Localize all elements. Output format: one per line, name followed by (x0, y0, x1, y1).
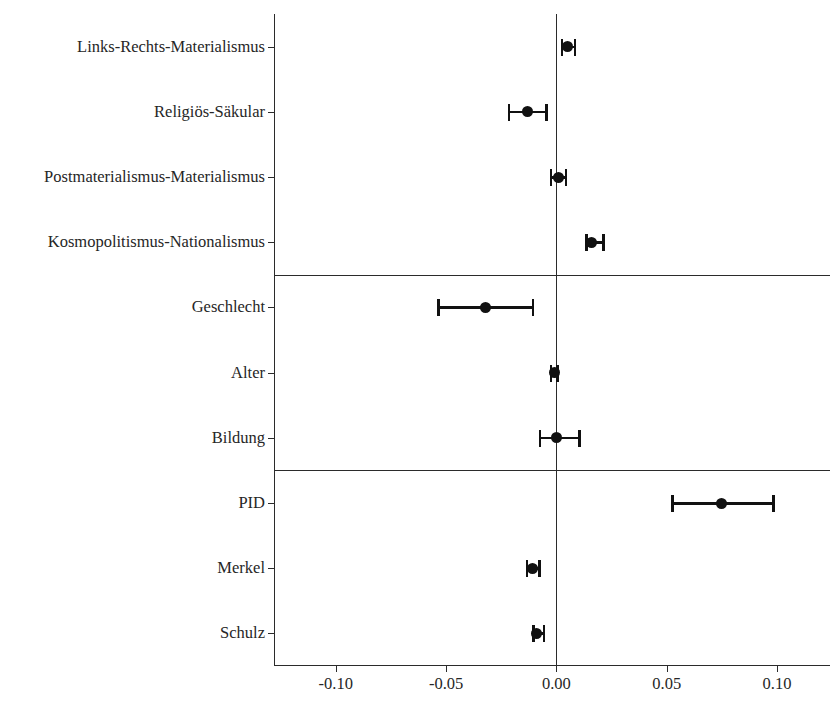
ci-cap-high (538, 560, 541, 577)
estimate-point (531, 628, 542, 639)
y-axis-tick (268, 568, 274, 569)
estimate-row (274, 164, 830, 190)
estimate-row (274, 425, 830, 451)
ci-cap-high (772, 495, 775, 512)
estimate-row (274, 99, 830, 125)
y-axis-label: PID (238, 495, 265, 512)
estimate-row (274, 294, 830, 320)
estimate-row (274, 229, 830, 255)
group-separator (274, 275, 830, 276)
y-axis-label: Links-Rechts-Materialismus (77, 38, 265, 55)
estimate-point (527, 563, 538, 574)
ci-cap-high (543, 625, 546, 642)
estimate-point (562, 41, 573, 52)
y-axis-tick (268, 503, 274, 504)
y-axis-tick (268, 112, 274, 113)
estimate-row (274, 360, 830, 386)
x-axis-label: 0.05 (652, 676, 681, 693)
y-axis-tick (268, 177, 274, 178)
estimate-point (549, 367, 560, 378)
ci-cap-high (545, 104, 548, 121)
estimate-row (274, 555, 830, 581)
y-axis-tick (268, 307, 274, 308)
estimate-point (586, 237, 597, 248)
ci-cap-high (565, 169, 568, 186)
y-axis-label: Kosmopolitismus-Nationalismus (48, 234, 265, 251)
y-axis-tick (268, 47, 274, 48)
y-axis-label: Geschlecht (192, 299, 265, 316)
y-axis-label: Postmaterialismus-Materialismus (44, 169, 265, 186)
x-axis-label: 0.10 (763, 676, 792, 693)
y-axis-label: Merkel (217, 560, 265, 577)
ci-cap-high (578, 430, 581, 447)
estimate-point (551, 432, 562, 443)
ci-cap-low (550, 169, 553, 186)
x-axis-tick (556, 666, 557, 672)
y-axis-tick (268, 373, 274, 374)
y-axis-label: Religiös-Säkular (154, 104, 265, 121)
estimate-point (716, 498, 727, 509)
estimate-point (480, 302, 491, 313)
estimate-point (522, 106, 533, 117)
x-axis-tick (336, 666, 337, 672)
y-axis-label: Bildung (212, 430, 265, 447)
ci-cap-high (574, 39, 577, 56)
x-axis-line (274, 665, 830, 666)
ci-cap-low (671, 495, 674, 512)
y-axis-tick (268, 633, 274, 634)
estimate-row (274, 34, 830, 60)
estimate-row (274, 620, 830, 646)
y-axis-tick (268, 438, 274, 439)
coefficient-plot: Links-Rechts-MaterialismusReligiös-Säkul… (0, 0, 839, 718)
ci-cap-low (539, 430, 542, 447)
plot-panel (274, 14, 830, 666)
x-axis-label: -0.05 (429, 676, 463, 693)
ci-cap-high (602, 234, 605, 251)
y-axis-tick (268, 242, 274, 243)
x-axis-tick (667, 666, 668, 672)
group-separator (274, 470, 830, 471)
x-axis-tick (446, 666, 447, 672)
y-axis-label: Alter (231, 364, 265, 381)
x-axis-tick (777, 666, 778, 672)
x-axis-label: -0.10 (319, 676, 353, 693)
y-axis-label: Schulz (220, 625, 265, 642)
estimate-point (553, 172, 564, 183)
x-axis-label: 0.00 (542, 676, 571, 693)
ci-cap-high (532, 299, 535, 316)
ci-cap-low (437, 299, 440, 316)
estimate-row (274, 490, 830, 516)
ci-cap-low (508, 104, 511, 121)
